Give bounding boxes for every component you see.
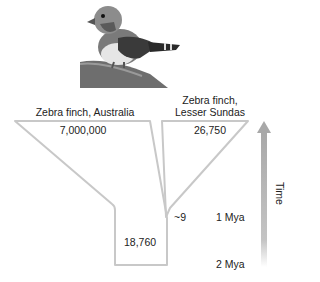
australia-size: 7,000,000 bbox=[48, 124, 118, 136]
lesser-sundas-label-line2: Lesser Sundas bbox=[167, 106, 253, 118]
ancestral-size: 18,760 bbox=[124, 236, 156, 248]
tick-1-mya: 1 Mya bbox=[216, 211, 245, 223]
time-arrow-head bbox=[257, 121, 271, 133]
lesser-sundas-label-line1: Zebra finch, bbox=[170, 94, 250, 106]
time-axis-label: Time bbox=[274, 182, 286, 205]
founder-size: ~9 bbox=[174, 211, 186, 223]
lesser-sundas-size: 26,750 bbox=[180, 124, 240, 136]
time-arrow-shaft bbox=[261, 131, 267, 267]
australia-label: Zebra finch, Australia bbox=[30, 106, 140, 118]
tick-2-mya: 2 Mya bbox=[216, 258, 245, 270]
